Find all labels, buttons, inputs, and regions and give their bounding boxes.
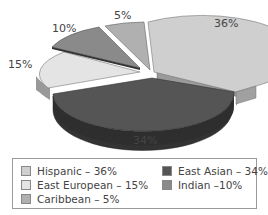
legend-item-east-european: East European – 15%: [21, 179, 148, 191]
swatch-icon: [162, 180, 172, 190]
legend: Hispanic – 36% East European – 15% Carib…: [12, 158, 257, 209]
label-caribbean: 5%: [114, 9, 131, 22]
label-hispanic: 36%: [214, 17, 238, 30]
legend-item-east-asian: East Asian – 34%: [162, 165, 268, 177]
legend-item-caribbean: Caribbean – 5%: [21, 193, 119, 205]
swatch-icon: [162, 166, 172, 176]
swatch-icon: [21, 194, 31, 204]
label-east-asian: 34%: [133, 134, 157, 147]
label-indian: 10%: [52, 22, 76, 35]
swatch-icon: [21, 180, 31, 190]
swatch-icon: [21, 166, 31, 176]
legend-item-hispanic: Hispanic – 36%: [21, 165, 117, 177]
legend-item-indian: Indian –10%: [162, 179, 242, 191]
label-east-european: 15%: [8, 58, 32, 71]
